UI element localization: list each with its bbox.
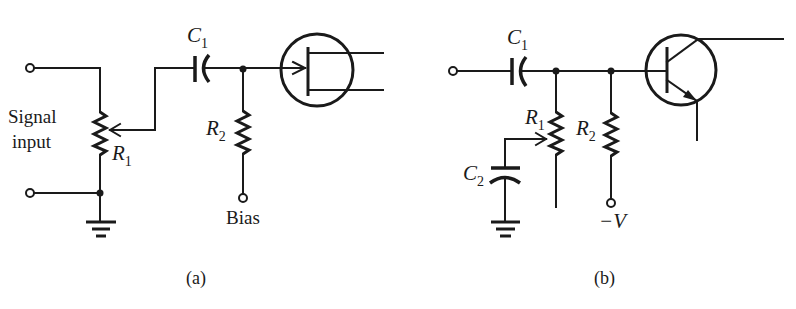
c2-label: C2: [463, 161, 484, 189]
c1-label: C1: [507, 25, 528, 53]
r1-label: R1: [524, 105, 545, 133]
supply-label: −V: [599, 209, 628, 233]
resistor-r1-icon: [94, 112, 106, 155]
c1-label: C1: [187, 23, 208, 51]
ground-icon: [491, 222, 520, 236]
resistor-r1-icon: [550, 112, 562, 155]
panel-b: C1 R1 C2: [449, 25, 783, 289]
r2-label: R2: [205, 116, 226, 144]
caption-a: (a): [186, 268, 206, 289]
bias-label: Bias: [226, 207, 260, 228]
r1-label: R1: [111, 141, 132, 169]
r2-label: R2: [575, 116, 596, 144]
circuit-figure: Signal input R1 C1 R2 Bias: [0, 0, 796, 309]
fet-icon: [281, 34, 383, 106]
input-terminal-icon: [449, 67, 457, 75]
supply-terminal-icon: [607, 199, 615, 207]
signal-label-line1: Signal: [8, 106, 57, 127]
resistor-r2-icon: [237, 111, 249, 154]
bjt-icon: [646, 35, 783, 140]
input-terminal-top-icon: [26, 64, 34, 72]
resistor-r2-icon: [605, 113, 617, 156]
signal-label-line2: input: [12, 131, 52, 152]
panel-a: Signal input R1 C1 R2 Bias: [8, 23, 383, 289]
input-terminal-bottom-icon: [26, 189, 34, 197]
bias-terminal-icon: [239, 194, 247, 202]
ground-icon: [86, 222, 116, 236]
caption-b: (b): [594, 268, 615, 289]
wiper-wire: [110, 68, 155, 130]
